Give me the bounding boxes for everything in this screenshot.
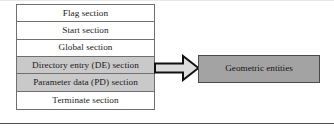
section-row-directory-entry: Directory entry (DE) section [17,57,154,74]
section-row-label: Flag section [63,9,108,18]
diagram-canvas: Flag section Start section Global sectio… [0,0,334,128]
geometric-entities-label: Geometric entities [225,64,293,73]
section-row-parameter-data: Parameter data (PD) section [17,74,154,91]
section-row-label: Global section [58,43,112,52]
section-row-global: Global section [17,40,154,57]
top-hairline [0,0,334,1]
file-section-stack: Flag section Start section Global sectio… [16,4,155,110]
section-row-start: Start section [17,22,154,39]
arrow-right-icon [154,54,200,82]
section-row-label: Start section [62,26,108,35]
section-row-label: Directory entry (DE) section [32,61,139,70]
bottom-rule [0,123,334,124]
section-row-label: Parameter data (PD) section [33,78,138,87]
section-row-flag: Flag section [17,5,154,22]
section-row-terminate: Terminate section [17,92,154,109]
geometric-entities-box: Geometric entities [198,55,320,83]
section-row-label: Terminate section [52,96,118,105]
